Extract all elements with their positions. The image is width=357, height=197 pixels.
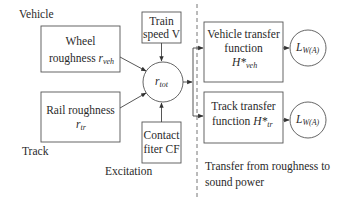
rail-roughness-node: Rail roughness rtr [41, 92, 120, 142]
track-transfer-line2: function H*tr [212, 115, 273, 129]
excitation-label: Excitation [105, 165, 153, 177]
output-track-node: LW(A) [290, 102, 326, 138]
vehicle-transfer-line2: function [224, 42, 263, 54]
arrow-wheel-to-rtot [120, 57, 146, 71]
train-speed-node: Train speed V [142, 12, 181, 43]
contact-filter-line1: Contact [144, 129, 181, 141]
vehicle-transfer-node: Vehicle transfer function H*veh [204, 22, 283, 82]
transfer-label-line1: Transfer from roughness to [205, 160, 330, 173]
arrow-rail-to-rtot [120, 93, 146, 108]
diagram-canvas: Vehicle Track Excitation Transfer from r… [0, 0, 357, 197]
total-roughness-node: rtot [143, 62, 183, 102]
train-speed-line1: Train [149, 15, 174, 27]
wheel-roughness-node: Wheel roughness rveh [41, 26, 120, 72]
vehicle-transfer-line1: Vehicle transfer [207, 28, 280, 40]
contact-filter-node: Contact fiter CF [142, 122, 181, 163]
track-transfer-node: Track transfer function H*tr [204, 92, 283, 143]
vehicle-label: Vehicle [19, 8, 53, 20]
train-speed-line2: speed V [143, 28, 181, 41]
track-transfer-line1: Track transfer [211, 100, 276, 112]
wheel-roughness-line1: Wheel [65, 35, 95, 47]
transfer-label-line2: sound power [205, 176, 264, 189]
output-vehicle-node: LW(A) [290, 30, 326, 66]
track-label: Track [22, 145, 49, 157]
contact-filter-line2: fiter CF [143, 143, 179, 155]
rail-roughness-line1: Rail roughness [46, 104, 115, 117]
